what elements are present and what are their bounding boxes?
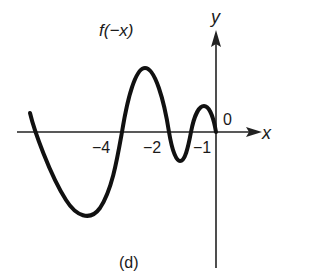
function-title: f(−x) (99, 22, 133, 39)
tick-label-neg4: −4 (92, 140, 110, 156)
tick-label-neg2: −2 (143, 140, 161, 156)
origin-label: 0 (223, 112, 232, 128)
tick-label-neg1: −1 (193, 140, 211, 156)
function-curve (30, 68, 216, 216)
y-axis-label: y (211, 8, 220, 26)
x-axis-label: x (262, 124, 271, 142)
figure-caption: (d) (119, 255, 139, 271)
